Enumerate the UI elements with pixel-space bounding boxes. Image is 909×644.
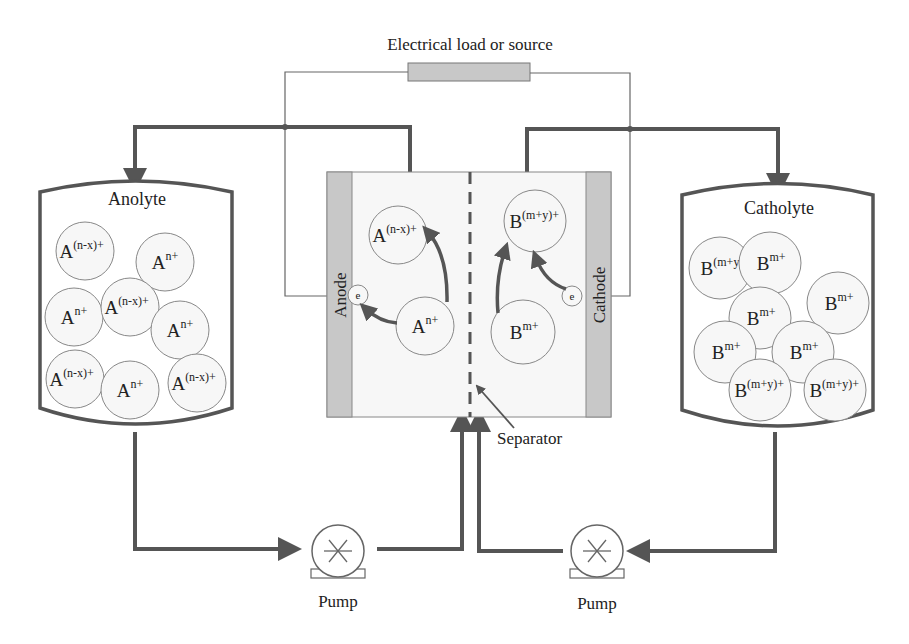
ion-a: An+ — [45, 288, 103, 346]
ion-b: B(m+y)+ — [804, 359, 866, 421]
ion-b: B(m+y)+ — [504, 190, 566, 252]
ion-a: An+ — [151, 301, 209, 359]
ion-a: A(n-x)+ — [369, 206, 427, 264]
cathode-label: Cathode — [590, 267, 609, 324]
electron-label: e — [570, 290, 575, 302]
ion-b: Bm+ — [739, 232, 801, 294]
pump-label: Pump — [577, 594, 617, 613]
pump-catholyte: Pump — [570, 525, 624, 613]
electrical-load — [408, 63, 530, 81]
ion-a: An+ — [101, 361, 159, 419]
catholyte-label: Catholyte — [744, 198, 814, 218]
pump-label: Pump — [318, 592, 358, 611]
load-title: Electrical load or source — [387, 35, 553, 54]
wire-junction — [282, 124, 288, 130]
anode-label: Anode — [331, 272, 350, 317]
ion-a: A(n-x)+ — [56, 222, 114, 280]
separator-label: Separator — [497, 429, 562, 448]
wire-junction — [627, 126, 633, 132]
ion-a: A(n-x)+ — [46, 350, 104, 408]
redox-flow-battery-diagram: Electrical load or source Anolyte A(n-x)… — [0, 0, 909, 644]
ion-b: Bm+ — [491, 300, 555, 364]
ion-a: A(n-x)+ — [168, 354, 226, 412]
pump-anolyte: Pump — [311, 525, 365, 611]
electron-label: e — [356, 289, 361, 301]
ion-b: B(m+y)+ — [729, 359, 791, 421]
anolyte-label: Anolyte — [108, 189, 166, 209]
ion-a: A(n-x)+ — [101, 278, 159, 336]
ion-a: An+ — [396, 297, 454, 355]
